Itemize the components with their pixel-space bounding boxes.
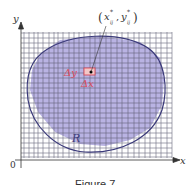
- x-axis-label: x: [180, 155, 186, 166]
- figure-caption: Figure 7: [75, 178, 115, 185]
- y-axis-label: y: [12, 13, 19, 24]
- svg-text:*: *: [127, 8, 130, 15]
- delta-y-label: Δy: [63, 67, 77, 78]
- point-label: ( x * ij , y * ij ): [98, 8, 138, 26]
- delta-x-label: Δx: [80, 78, 94, 89]
- region-label: R: [71, 132, 80, 145]
- svg-text:ij: ij: [110, 19, 114, 26]
- inner-rectangles: [30, 36, 164, 146]
- svg-text:,: ,: [116, 11, 119, 22]
- y-axis-arrow-icon: [19, 22, 24, 29]
- region-diagram: y x 0 R Δy Δx ( x * ij , y * ij ) Figure…: [0, 0, 189, 185]
- origin-label: 0: [10, 160, 16, 170]
- x-axis-arrow-icon: [173, 158, 180, 163]
- svg-text:y: y: [120, 11, 127, 22]
- svg-text:*: *: [110, 8, 113, 15]
- sample-rectangle: [84, 68, 95, 75]
- svg-text:ij: ij: [127, 19, 131, 26]
- svg-text:): ): [133, 11, 138, 25]
- svg-text:(: (: [98, 11, 103, 25]
